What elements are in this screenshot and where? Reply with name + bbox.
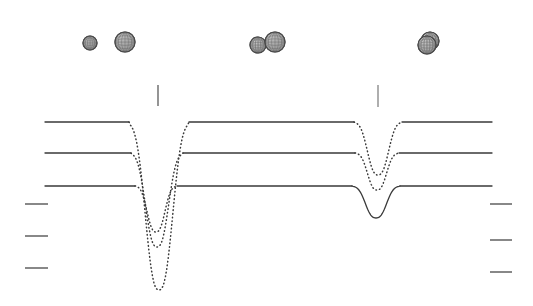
- sphere-icon: [250, 37, 266, 53]
- figure-canvas: [0, 0, 533, 306]
- sphere-icon: [83, 36, 97, 50]
- sphere-icon: [265, 32, 285, 52]
- cluster-b: [115, 32, 135, 52]
- cluster-a: [83, 36, 97, 50]
- figure-svg: [0, 0, 533, 306]
- sphere-icon: [115, 32, 135, 52]
- sphere-icon: [418, 36, 436, 54]
